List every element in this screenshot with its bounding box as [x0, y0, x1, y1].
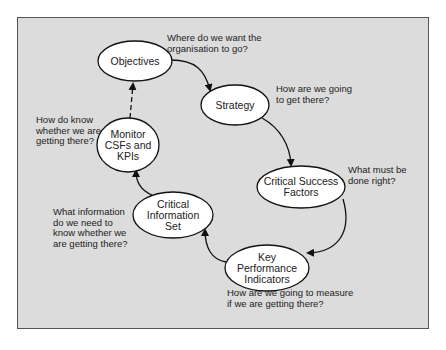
note-csf: What must be done right? — [348, 165, 407, 186]
note-cis: What information do we need to know whet… — [53, 207, 127, 249]
edge-monitor-objectives — [130, 84, 133, 118]
node-label-kpi: Key Performance Indicators — [237, 252, 297, 285]
node-label-strategy: Strategy — [215, 100, 254, 111]
edge-objectives-strategy — [171, 60, 210, 90]
note-objectives: Where do we want the organisation to go? — [167, 33, 262, 54]
edge-cis-monitor — [136, 171, 152, 195]
note-monitor: How do know whether we are getting there… — [36, 115, 101, 147]
edge-kpi-cis — [205, 230, 226, 262]
node-label-csf: Critical Success Factors — [264, 176, 339, 198]
note-kpi: How are we going to measure if we are ge… — [227, 288, 353, 309]
node-label-monitor: Monitor CSFs and KPIs — [105, 129, 152, 162]
edge-strategy-csf — [262, 118, 291, 165]
note-strategy: How are we going to get there? — [276, 84, 352, 105]
node-label-objectives: Objectives — [110, 56, 159, 67]
node-label-cis: Critical Information Set — [147, 199, 200, 232]
